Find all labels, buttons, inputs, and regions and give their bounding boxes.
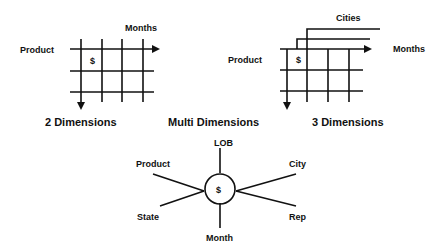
dimensions-diagram: Months Product $ 2 Dimensions Multi Dime… <box>0 0 448 252</box>
two-dimension-grid: Months Product $ 2 Dimensions <box>20 23 158 128</box>
rep-label: Rep <box>289 212 307 222</box>
city-label: City <box>289 159 306 169</box>
spoke-lower-right <box>236 191 296 206</box>
spoke-lower-left <box>160 191 204 206</box>
multi-dimension-star: $ LOB Product City State Rep Month <box>136 138 307 243</box>
three-dimension-grid: Cities Months Product $ 3 Dimensions <box>228 13 425 128</box>
product-label: Product <box>228 55 262 65</box>
multi-dimensions-title: Multi Dimensions <box>168 116 259 128</box>
month-label: Month <box>206 233 233 243</box>
cities-label: Cities <box>336 13 361 23</box>
cell-value: $ <box>90 56 95 66</box>
state-label: State <box>137 212 159 222</box>
two-dimensions-title: 2 Dimensions <box>45 116 117 128</box>
spoke-upper-right <box>236 174 296 191</box>
three-dimensions-title: 3 Dimensions <box>312 116 384 128</box>
months-label: Months <box>125 23 157 33</box>
spoke-upper-left <box>153 174 204 191</box>
product-label: Product <box>20 45 54 55</box>
cell-value: $ <box>296 55 301 65</box>
months-label: Months <box>393 44 425 54</box>
lob-label: LOB <box>214 138 233 148</box>
product-label: Product <box>136 159 170 169</box>
center-value: $ <box>216 185 221 195</box>
depth-layer-middle <box>297 39 370 49</box>
